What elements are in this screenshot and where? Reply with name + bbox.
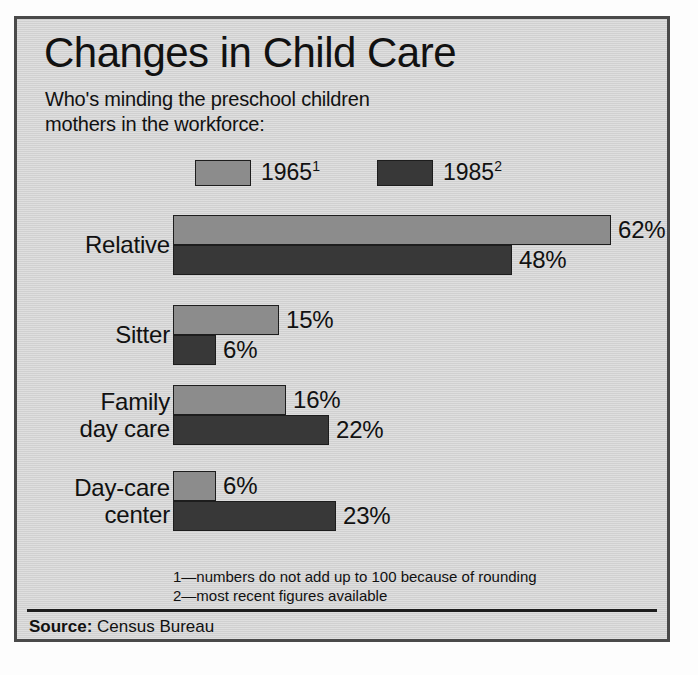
table-row: 6% xyxy=(173,471,390,501)
bar-pair-sitter: 15% 6% xyxy=(173,305,333,365)
table-row: 15% xyxy=(173,305,333,335)
chart-plot: Relative 62% 48% Sitter xyxy=(17,215,667,553)
table-row: 23% xyxy=(173,501,390,531)
bar-day-care-center-1985 xyxy=(173,501,336,531)
bar-family-day-care-1965 xyxy=(173,385,286,415)
source-label: Source: xyxy=(29,617,92,636)
legend-text-1985: 1985 xyxy=(443,159,494,185)
chart-footnotes: 1—numbers do not add up to 100 because o… xyxy=(173,567,537,605)
bar-pair-family-day-care: 16% 22% xyxy=(173,385,383,445)
legend-swatch-1965 xyxy=(195,160,251,186)
table-row: 48% xyxy=(173,245,665,275)
chart-title: Changes in Child Care xyxy=(44,29,456,77)
category-label-family-day-care: Family day care xyxy=(0,388,170,442)
bar-pair-day-care-center: 6% 23% xyxy=(173,471,390,531)
table-row: 62% xyxy=(173,215,665,245)
table-row: 22% xyxy=(173,415,383,445)
legend-item-1985: 19852 xyxy=(377,159,502,186)
legend-item-1965: 19651 xyxy=(195,159,320,186)
bar-day-care-center-1965 xyxy=(173,471,216,501)
category-label-sitter: Sitter xyxy=(0,321,170,348)
bar-sitter-1965 xyxy=(173,305,279,335)
bar-value-family-day-care-1965: 16% xyxy=(293,386,340,414)
bar-value-day-care-center-1965: 6% xyxy=(223,472,257,500)
source-value: Census Bureau xyxy=(97,617,214,636)
table-row: 16% xyxy=(173,385,383,415)
category-label-relative: Relative xyxy=(0,231,170,258)
bar-sitter-1985 xyxy=(173,335,216,365)
legend-label-1965: 19651 xyxy=(261,159,320,186)
source-divider xyxy=(27,609,657,612)
bar-relative-1965 xyxy=(173,215,611,245)
legend-footnote-marker-1985: 2 xyxy=(494,158,502,174)
bar-value-family-day-care-1985: 22% xyxy=(336,416,383,444)
table-row: 6% xyxy=(173,335,333,365)
legend-label-1985: 19852 xyxy=(443,159,502,186)
legend-text-1965: 1965 xyxy=(261,159,312,185)
legend-swatch-1985 xyxy=(377,160,433,186)
chart-subtitle: Who's minding the preschool children mot… xyxy=(45,87,370,137)
source-line: Source: Census Bureau xyxy=(29,617,214,637)
bar-value-relative-1965: 62% xyxy=(618,216,665,244)
category-label-day-care-center: Day-care center xyxy=(0,474,170,528)
bar-value-relative-1985: 48% xyxy=(519,246,566,274)
bar-value-day-care-center-1985: 23% xyxy=(343,502,390,530)
chart-panel: Changes in Child Care Who's minding the … xyxy=(17,19,667,639)
chart-legend: 19651 19852 xyxy=(195,159,495,193)
bar-value-sitter-1985: 6% xyxy=(223,336,257,364)
chart-page: Changes in Child Care Who's minding the … xyxy=(0,0,698,675)
bar-pair-relative: 62% 48% xyxy=(173,215,665,275)
bar-relative-1985 xyxy=(173,245,512,275)
chart-frame: Changes in Child Care Who's minding the … xyxy=(14,16,670,642)
bar-value-sitter-1965: 15% xyxy=(286,306,333,334)
legend-footnote-marker-1965: 1 xyxy=(312,158,320,174)
bar-family-day-care-1985 xyxy=(173,415,329,445)
